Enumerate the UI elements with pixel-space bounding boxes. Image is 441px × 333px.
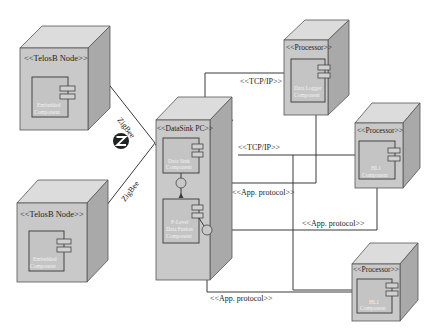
svg-text:Component: Component (30, 263, 56, 269)
deployment-diagram: <<TelosB Node>> Embedded Component <<Tel… (0, 0, 441, 333)
tcp-label-top: <<TCP/IP>> (240, 77, 283, 86)
component-port-icon (192, 152, 203, 157)
svg-text:Data Logger: Data Logger (294, 85, 322, 91)
node-title: <<TelosB Node>> (20, 209, 84, 219)
node-processor-1[interactable]: <<Processor>> Data Logger Component (284, 20, 349, 115)
svg-text:Embedded: Embedded (33, 256, 57, 262)
svg-text:HL1: HL1 (371, 165, 381, 171)
node-title: <<Processor>> (286, 43, 332, 52)
provided-interface-icon (202, 225, 212, 235)
node-title: <<Processor>> (353, 265, 399, 274)
node-title: <<Processor>> (357, 126, 403, 135)
svg-text:Component: Component (34, 109, 60, 115)
svg-text:Component: Component (294, 92, 320, 98)
node-telosb-1[interactable]: <<TelosB Node>> Embedded Component (20, 26, 110, 130)
app-protocol-label-2: <<App. protocol>> (302, 219, 365, 228)
component-port-icon (386, 283, 398, 288)
component-port-icon (318, 65, 330, 70)
component-port-icon (386, 291, 398, 296)
data-fusion-component[interactable]: F-Level Data Fusion Component (163, 199, 203, 243)
data-logger-component[interactable]: Data Logger Component (291, 59, 330, 102)
svg-text:F-Level: F-Level (171, 219, 189, 225)
hl1-component[interactable]: HL1 Component (359, 141, 400, 179)
component-port-icon (192, 144, 203, 149)
component-port-icon (388, 156, 400, 161)
provided-interface-icon (176, 178, 186, 188)
component-port-icon (318, 73, 330, 78)
component-port-icon (192, 213, 203, 218)
zigbee-label-bottom: ZigBee (119, 179, 141, 203)
svg-text:Component: Component (166, 233, 192, 239)
hl1-component[interactable]: HL1 Component (357, 279, 398, 313)
component-port-icon (60, 86, 75, 91)
zigbee-logo-icon (113, 133, 129, 149)
tcp-label-mid: <<TCP/IP>> (238, 143, 281, 152)
component-port-icon (192, 205, 203, 210)
node-telosb-2[interactable]: <<TelosB Node>> Embedded Component (17, 180, 108, 282)
component-port-icon (57, 239, 71, 244)
node-processor-3[interactable]: <<Processor>> HL1 Component (352, 243, 418, 321)
node-title: <<DataSink PC>> (157, 124, 213, 133)
svg-text:Component: Component (360, 305, 386, 311)
node-processor-2[interactable]: <<Processor>> HL1 Component (355, 103, 420, 188)
svg-text:Embedded: Embedded (37, 102, 61, 108)
svg-text:Component: Component (166, 164, 192, 170)
app-protocol-label-3: <<App. protocol>> (210, 294, 273, 303)
app-protocol-label-1: <<App. protocol>> (232, 188, 295, 197)
svg-text:Component: Component (362, 172, 388, 178)
data-sink-component[interactable]: Data Sink Component (163, 138, 203, 173)
node-title: <<TelosB Node>> (24, 53, 88, 63)
svg-text:Data Fusion: Data Fusion (166, 226, 193, 232)
component-port-icon (57, 247, 71, 252)
component-port-icon (60, 94, 75, 99)
component-port-icon (388, 148, 400, 153)
node-datasink-pc[interactable]: <<DataSink PC>> Data Sink Component F-Le… (155, 97, 233, 280)
